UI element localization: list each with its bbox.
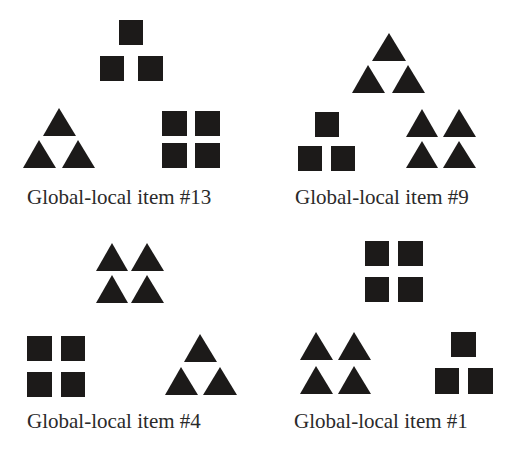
square-icon (435, 368, 459, 394)
square-icon (398, 277, 423, 302)
square-icon (398, 241, 423, 266)
square-icon (162, 111, 187, 136)
square-icon (61, 372, 85, 397)
square-icon (451, 332, 476, 357)
square-icon (468, 368, 493, 394)
square-icon (138, 56, 163, 81)
item-13-caption: Global-local item #13 (27, 187, 211, 208)
global-local-figure (0, 0, 506, 452)
item-4-caption: Global-local item #4 (27, 411, 201, 432)
square-icon (195, 143, 220, 168)
square-icon (27, 372, 52, 397)
square-icon (119, 20, 143, 45)
square-icon (365, 241, 389, 266)
item-1-caption: Global-local item #1 (294, 411, 468, 432)
square-icon (331, 146, 355, 171)
square-icon (195, 111, 220, 136)
square-icon (61, 336, 85, 361)
square-icon (365, 277, 389, 302)
item-9-caption: Global-local item #9 (295, 187, 469, 208)
square-icon (27, 336, 52, 361)
square-icon (298, 146, 322, 171)
square-icon (315, 112, 339, 137)
square-icon (162, 143, 187, 168)
square-icon (100, 56, 124, 81)
